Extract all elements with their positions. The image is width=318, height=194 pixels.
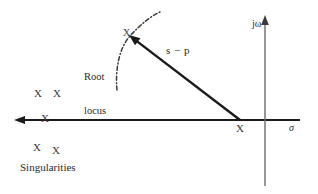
pole-marker-x-p: X: [236, 123, 244, 134]
pole-marker-x: X: [34, 88, 42, 99]
root-locus-figure: jω σ s − p Root locus Singularities X X …: [0, 0, 318, 194]
root-locus-label: Root locus: [84, 48, 106, 139]
pole-marker-x: X: [33, 142, 41, 153]
pole-marker-x: X: [52, 145, 60, 156]
sigma-axis-arrowhead-icon: [14, 116, 25, 124]
pole-marker-x: X: [53, 88, 61, 99]
singularities-label: Singularities: [20, 162, 76, 174]
j-omega-axis: [261, 15, 269, 186]
root-locus-label-line1: Root: [84, 71, 106, 82]
s-minus-p-label: s − p: [166, 45, 190, 57]
j-omega-axis-label: jω: [252, 19, 261, 30]
pole-marker-x-on-axis: X: [41, 113, 49, 124]
sigma-axis: [14, 116, 300, 124]
root-locus-label-line2: locus: [84, 105, 106, 116]
root-locus-curve: [117, 12, 160, 90]
j-omega-axis-arrowhead-icon: [261, 15, 269, 25]
pole-marker-x-s: X: [123, 28, 130, 38]
sigma-axis-label: σ: [289, 123, 294, 134]
